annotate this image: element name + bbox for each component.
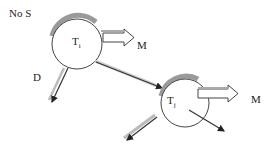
diagram-canvas	[0, 0, 276, 146]
node-ti-label-main: T	[72, 35, 79, 47]
node-ti-label: Ti	[72, 36, 81, 50]
tj-left-arrow-shadow	[124, 115, 155, 138]
ti-m-label: M	[137, 40, 147, 51]
d-label: D	[33, 72, 41, 83]
node-tj-label-sub: j	[174, 101, 176, 109]
corner-label: No S	[9, 8, 31, 19]
node-tj-label-main: T	[167, 94, 174, 106]
node-ti-label-sub: i	[79, 42, 81, 50]
d-arrow	[52, 68, 68, 102]
ti-hollow-arrow	[101, 29, 134, 46]
ti-to-tj-arrow	[96, 62, 162, 88]
tj-m-label: M	[251, 94, 261, 105]
tj-left-arrow	[127, 117, 157, 140]
node-tj-label: Tj	[167, 95, 176, 109]
d-arrow-shadow	[49, 68, 64, 100]
